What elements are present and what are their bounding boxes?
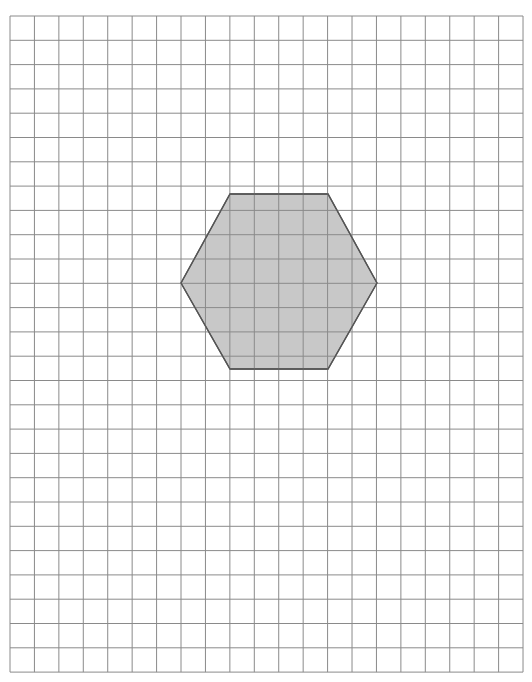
grid-diagram	[0, 0, 532, 682]
